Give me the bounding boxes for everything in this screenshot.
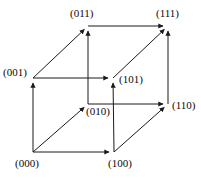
vertex-label-101: (101) (119, 73, 143, 85)
vertex-label-011: (011) (70, 7, 93, 19)
vertex-point-111 (167, 25, 169, 27)
edge-001-to-011 (33, 29, 84, 78)
vertex-label-111: (111) (156, 7, 179, 19)
edge-100-to-101 (113, 83, 114, 152)
edge-101-to-111 (113, 29, 164, 78)
vertex-label-110: (110) (172, 99, 195, 111)
vertex-label-010: (010) (86, 105, 110, 117)
edge-000-to-010 (33, 107, 84, 152)
edge-100-to-110 (114, 107, 164, 152)
vertex-label-001: (001) (3, 66, 27, 78)
cube-graph-svg (0, 0, 201, 178)
edges-group (33, 26, 168, 152)
cube-diagram-figure: (000)(100)(001)(101)(010)(110)(011)(111) (0, 0, 201, 178)
vertex-label-100: (100) (108, 157, 132, 169)
vertex-label-000: (000) (15, 157, 39, 169)
